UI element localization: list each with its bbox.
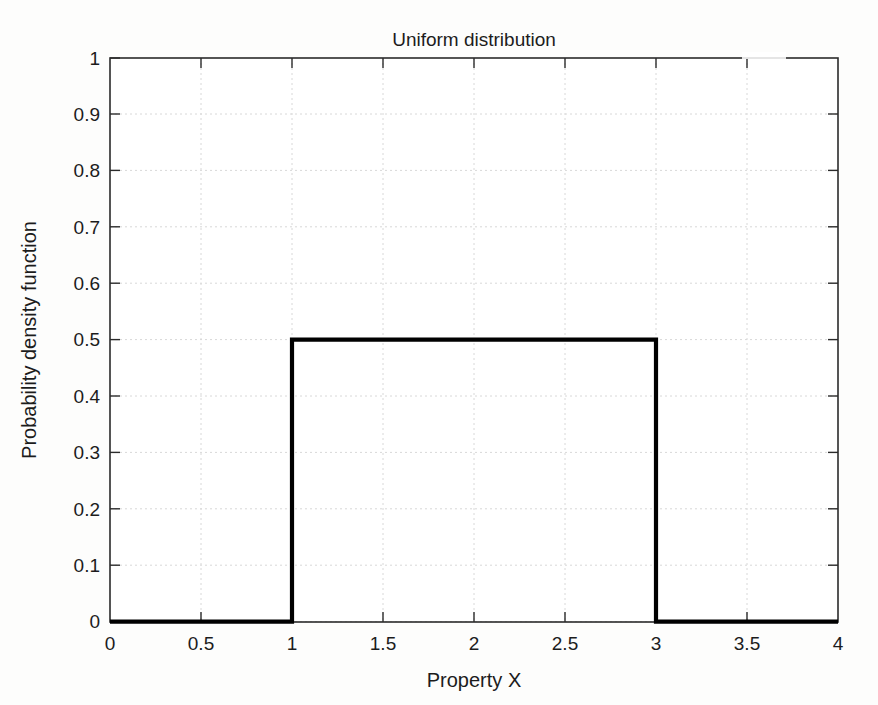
y-tick-label-0.2: 0.2	[74, 499, 100, 520]
y-tick-label-0: 0	[89, 611, 100, 632]
x-tick-label-4: 4	[833, 633, 844, 654]
y-tick-label-0.6: 0.6	[74, 273, 100, 294]
y-tick-label-1: 1	[89, 48, 100, 69]
y-tick-label-0.8: 0.8	[74, 160, 100, 181]
x-tick-label-2: 2	[469, 633, 480, 654]
uniform-distribution-chart: Uniform distribution	[0, 0, 878, 705]
x-tick-label-0.5: 0.5	[188, 633, 214, 654]
y-tick-label-0.1: 0.1	[74, 555, 100, 576]
y-tick-label-0.9: 0.9	[74, 104, 100, 125]
y-axis-label: Probability density function	[18, 221, 40, 459]
y-tick-label-0.4: 0.4	[74, 386, 101, 407]
scan-artifact	[742, 52, 786, 59]
chart-figure: Uniform distribution	[0, 0, 878, 705]
chart-title: Uniform distribution	[392, 29, 556, 50]
x-tick-label-3: 3	[651, 633, 662, 654]
x-axis-label: Property X	[427, 669, 521, 691]
y-tick-label-0.5: 0.5	[74, 329, 100, 350]
x-tick-label-1: 1	[287, 633, 298, 654]
x-tick-label-3.5: 3.5	[734, 633, 760, 654]
x-tick-label-0: 0	[105, 633, 116, 654]
y-tick-label-0.7: 0.7	[74, 217, 100, 238]
x-tick-label-1.5: 1.5	[370, 633, 396, 654]
x-tick-label-2.5: 2.5	[552, 633, 578, 654]
y-tick-label-0.3: 0.3	[74, 442, 100, 463]
